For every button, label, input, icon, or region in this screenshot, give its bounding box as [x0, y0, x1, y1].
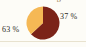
figure-title-text: Verteilung [0, 0, 86, 2]
figure-title-clipped: Verteilung [0, 0, 86, 2]
pie-chart-graphic [26, 6, 60, 40]
pie-svg [26, 6, 60, 40]
baseline-divider [0, 41, 86, 42]
pie-label-63: 63 % [2, 25, 19, 34]
pie-chart-figure: Verteilung 63 % 37 % [0, 0, 86, 47]
pie-label-37: 37 % [60, 12, 77, 21]
